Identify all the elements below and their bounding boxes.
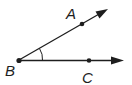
point-c <box>87 58 92 63</box>
point-b <box>16 58 21 63</box>
label-a: A <box>65 5 76 22</box>
arrowhead-bc-icon <box>111 57 124 65</box>
point-a <box>80 22 85 27</box>
angle-arc <box>40 49 43 61</box>
ray-ba <box>19 9 108 60</box>
arrowhead-ba-icon <box>96 9 109 19</box>
ray-bc <box>19 57 124 65</box>
label-b: B <box>5 62 15 79</box>
label-c: C <box>82 69 93 85</box>
angle-diagram: B A C <box>0 0 132 85</box>
